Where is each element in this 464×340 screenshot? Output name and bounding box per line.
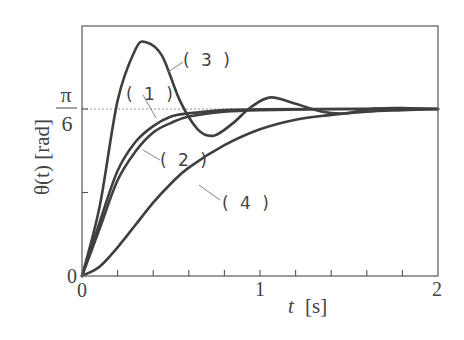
y-axis-label: θ(t) [rad]	[30, 119, 54, 195]
curve-label-4: ( 4 )	[222, 193, 272, 213]
x-axis-unit: [s]	[305, 294, 327, 318]
y-tick-label-six: 6	[62, 111, 73, 136]
leader-line-4	[199, 185, 220, 200]
step-response-chart: ( 3 ) ( 1 ) ( 2 ) ( 4 ) π 6 0 0 1 2 t [s…	[0, 0, 464, 340]
curve-3	[82, 41, 438, 276]
x-tick-label-zero: 0	[77, 279, 87, 301]
curve-label-2: ( 2 )	[160, 150, 210, 170]
x-tick-label-one: 1	[255, 278, 265, 300]
x-tick-label-two: 2	[432, 278, 442, 300]
curves-group	[82, 41, 438, 276]
x-axis-variable: t	[288, 294, 295, 318]
curve-label-3: ( 3 )	[183, 50, 233, 70]
x-ticks	[118, 270, 403, 276]
y-tick-label-zero: 0	[67, 265, 77, 287]
y-tick-label-pi: π	[60, 82, 71, 107]
leader-line-2	[143, 150, 160, 160]
leader-line-3	[168, 62, 183, 72]
x-axis-label: t [s]	[288, 294, 327, 318]
curve-label-1: ( 1 )	[126, 84, 176, 104]
